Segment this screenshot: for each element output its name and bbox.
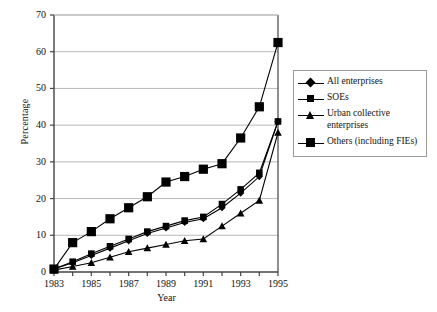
- legend-item-all-enterprises: All enterprises: [298, 76, 422, 91]
- data-point: [49, 264, 58, 273]
- data-point: [161, 177, 170, 186]
- data-point: [68, 238, 77, 247]
- data-point: [237, 186, 244, 193]
- data-point: [107, 243, 114, 250]
- y-tick-label: 50: [16, 83, 46, 93]
- legend-label: Others (including FIEs): [324, 136, 417, 148]
- x-tick-label: 1985: [71, 279, 111, 289]
- y-tick-label: 0: [16, 267, 46, 277]
- legend-item-urban-collective-enterprises: Urban collective enterprises: [298, 108, 422, 135]
- data-point: [256, 197, 264, 204]
- data-point: [144, 228, 151, 235]
- y-tick-label: 10: [16, 230, 46, 240]
- legend-label: Urban collective enterprises: [324, 108, 390, 131]
- data-point: [124, 203, 133, 212]
- data-point: [181, 217, 188, 224]
- y-tick-label: 40: [16, 120, 46, 130]
- chart-figure: Percentage Year 010203040506070 19831985…: [0, 0, 437, 312]
- x-tick-label: 1983: [34, 279, 74, 289]
- x-tick-label: 1993: [221, 279, 261, 289]
- data-point: [180, 172, 189, 181]
- y-tick-label: 60: [16, 47, 46, 57]
- legend-item-soes: SOEs: [298, 92, 422, 107]
- square-large-icon: [298, 137, 324, 150]
- data-point: [217, 159, 226, 168]
- y-tick-label: 20: [16, 194, 46, 204]
- legend: All enterprises SOEs Urban collective en…: [293, 70, 427, 157]
- diamond-icon: [298, 77, 324, 90]
- x-axis-label: Year: [54, 292, 279, 303]
- data-point: [237, 209, 245, 216]
- x-tick-label: 1991: [183, 279, 223, 289]
- square-small-icon: [298, 93, 324, 106]
- x-tick-label: 1989: [146, 279, 186, 289]
- data-point: [125, 236, 132, 243]
- data-point: [143, 192, 152, 201]
- data-point: [105, 214, 114, 223]
- data-point: [200, 214, 207, 221]
- legend-label: SOEs: [324, 92, 349, 104]
- data-point: [88, 250, 95, 257]
- data-point: [236, 133, 245, 142]
- data-point: [87, 227, 96, 236]
- data-point: [218, 222, 226, 229]
- data-point: [256, 170, 263, 177]
- data-point: [199, 165, 208, 174]
- y-tick-label: 30: [16, 157, 46, 167]
- data-point: [273, 38, 282, 47]
- data-point: [275, 118, 282, 125]
- data-point: [219, 201, 226, 208]
- x-tick-label: 1987: [109, 279, 149, 289]
- series-line: [54, 132, 278, 270]
- triangle-icon: [298, 109, 324, 122]
- y-tick-label: 70: [16, 10, 46, 20]
- x-tick-label: 1995: [258, 279, 298, 289]
- data-point: [255, 102, 264, 111]
- data-point: [163, 223, 170, 230]
- legend-label: All enterprises: [324, 76, 383, 88]
- legend-item-others-including-fies: Others (including FIEs): [298, 136, 422, 151]
